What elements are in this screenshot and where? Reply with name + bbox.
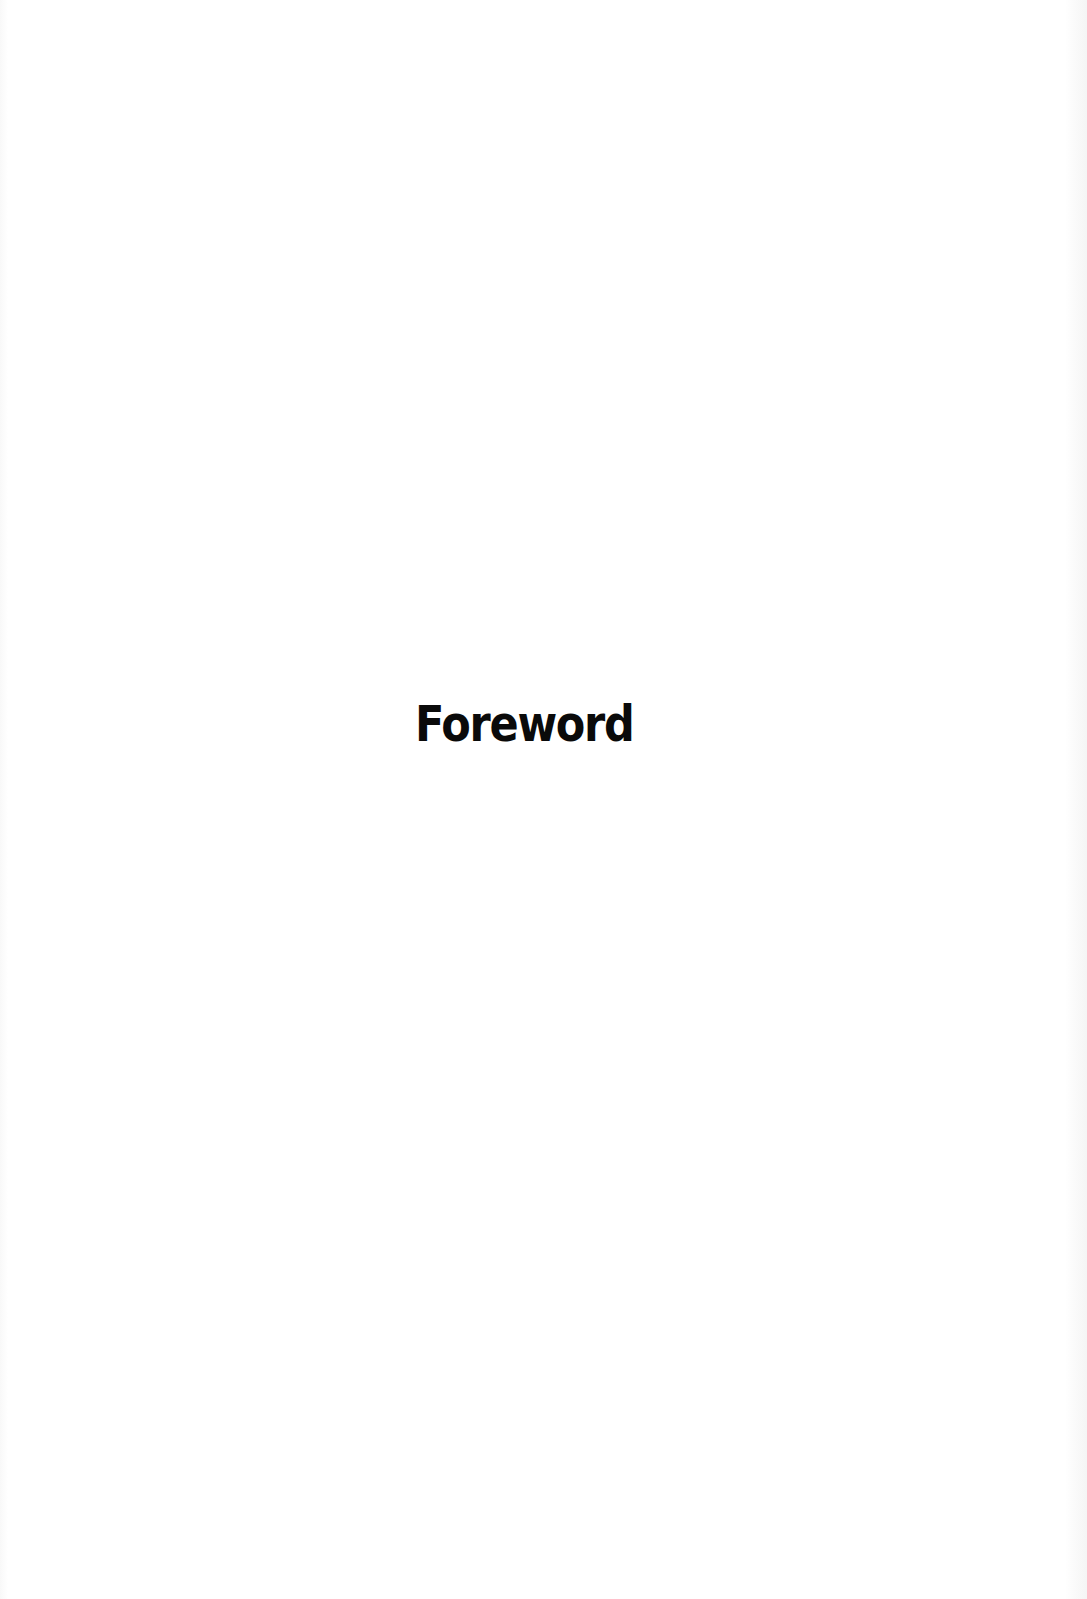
book-page: Foreword	[0, 0, 1087, 1599]
page-title: Foreword	[415, 694, 633, 754]
page-left-edge-shadow	[0, 0, 8, 1599]
page-right-edge-shadow	[1065, 0, 1087, 1599]
